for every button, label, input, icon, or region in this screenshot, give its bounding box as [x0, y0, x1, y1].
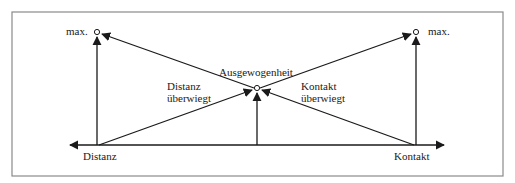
contact-dominates-label-2: überwiegt: [301, 92, 345, 104]
balance-point: [254, 85, 259, 90]
balance-label: Ausgewogenheit: [219, 66, 293, 78]
max-right-label: max.: [428, 25, 450, 37]
axis-right-label: Kontakt: [394, 150, 429, 162]
distance-dominates-label-2: überwiegt: [167, 92, 211, 104]
axis-left-label: Distanz: [83, 150, 117, 162]
distance-contact-diagram: max. max. Ausgewogenheit Distanz überwie…: [0, 0, 515, 183]
max-left-label: max.: [66, 25, 88, 37]
right-max-point: [413, 29, 418, 34]
left-max-point: [94, 29, 99, 34]
contact-dominates-label-1: Kontakt: [301, 80, 336, 92]
distance-dominates-label-1: Distanz: [167, 80, 201, 92]
